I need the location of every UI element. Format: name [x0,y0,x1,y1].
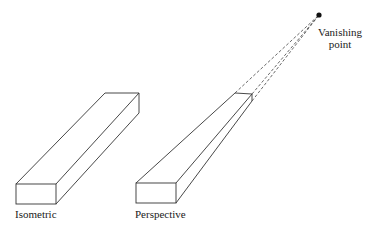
isometric-box [16,93,139,204]
isometric-front-face [16,184,56,204]
projection-lines [235,15,319,101]
isometric-label: Isometric [15,208,57,220]
perspective-box [136,93,252,203]
vanishing-point-label-line2: point [312,38,368,50]
projection-line-top-right [252,15,319,94]
projection-line-bottom-right [252,15,319,101]
isometric-bottom-right-edge [56,113,139,204]
perspective-front-face [136,183,176,203]
perspective-back-top-edge [235,93,252,94]
vanishing-point-label-line1: Vanishing [312,26,368,38]
isometric-top-right-edge [56,93,139,184]
isometric-top-left-edge [16,93,105,184]
perspective-top-left-edge [136,93,235,183]
vanishing-point-dot [316,12,321,17]
vanishing-point-label: Vanishing point [312,26,368,50]
perspective-label: Perspective [135,208,186,220]
perspective-top-right-edge [176,94,252,183]
projection-line-top-left [235,15,319,93]
perspective-bottom-right-edge [176,101,252,203]
